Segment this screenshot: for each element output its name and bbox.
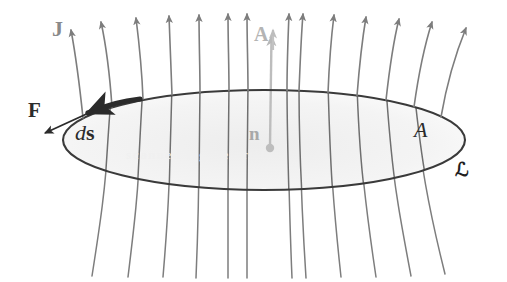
label-area-scalar-A: A: [414, 119, 427, 141]
label-ds-s: s: [86, 120, 95, 145]
field-line-upper: [441, 28, 466, 117]
label-line-element-ds: ds: [75, 122, 95, 144]
label-normal-vector-n: n: [249, 124, 260, 143]
field-line-upper: [287, 14, 289, 91]
field-line-upper: [199, 15, 200, 93]
field-line-upper: [136, 18, 143, 99]
field-line-upper: [357, 17, 366, 96]
label-area-vector-A: A: [254, 24, 268, 44]
field-line-upper: [247, 14, 248, 91]
label-contour-curve: ℒ: [455, 160, 469, 179]
field-line-upper: [386, 19, 399, 100]
field-line-upper: [299, 14, 303, 91]
label-force-F: F: [28, 100, 41, 121]
field-line-surface: [199, 85, 200, 196]
label-ds-d: d: [75, 120, 86, 145]
field-line-upper: [328, 15, 334, 93]
field-line-upper: [71, 30, 83, 118]
field-line-surface: [228, 84, 229, 196]
field-line-upper: [101, 22, 112, 107]
scan-watermark: scanned figure artifact: [126, 147, 288, 163]
label-current-density-J: J: [52, 18, 63, 40]
field-line-surface: [247, 84, 248, 196]
field-line-upper: [169, 16, 172, 95]
field-line-upper: [228, 14, 229, 91]
physics-figure-canvas: scanned figure artifact J F ds A n A ℒ: [0, 0, 507, 282]
field-line-upper: [414, 22, 432, 107]
